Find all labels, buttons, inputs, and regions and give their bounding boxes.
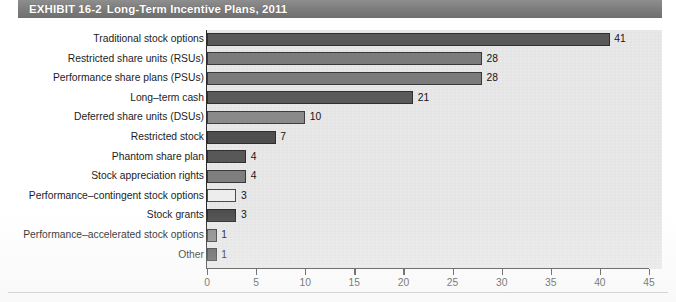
bar-value-label: 28 — [487, 50, 498, 68]
bar-segment — [207, 33, 610, 46]
x-axis-tick-label: 40 — [594, 277, 605, 288]
bar-segment — [207, 209, 236, 222]
bar-segment — [207, 229, 217, 242]
x-axis-tick-label: 0 — [204, 277, 210, 288]
exhibit-banner: EXHIBIT 16-2Long-Term Incentive Plans, 2… — [18, 0, 662, 18]
bar-segment — [207, 91, 413, 104]
x-axis-tick-label: 25 — [447, 277, 458, 288]
bar-segment — [207, 150, 246, 163]
bar-value-label: 41 — [614, 30, 625, 48]
bar-row: Stock appreciation rights4 — [0, 167, 676, 185]
bar-category-label: Stock grants — [147, 206, 204, 224]
bar-category-label: Performance share plans (PSUs) — [53, 69, 204, 87]
bar-value-label: 3 — [241, 206, 247, 224]
bar-row: Deferred share units (DSUs)10 — [0, 108, 676, 126]
exhibit-number-label: EXHIBIT 16-2 — [29, 3, 102, 15]
x-axis-tick-mark — [403, 269, 404, 275]
bar-row: Stock grants3 — [0, 206, 676, 224]
x-axis-tick-mark — [551, 269, 552, 275]
bar-row: Long–term cash21 — [0, 89, 676, 107]
x-axis-tick-mark — [649, 269, 650, 275]
bar-value-label: 4 — [251, 167, 257, 185]
bar-value-label: 21 — [418, 89, 429, 107]
bar-category-label: Stock appreciation rights — [91, 167, 204, 185]
bar-value-label: 7 — [280, 128, 286, 146]
bar-category-label: Other — [178, 246, 204, 264]
bar-segment — [207, 111, 305, 124]
x-axis-tick-label: 5 — [253, 277, 259, 288]
x-axis-tick-label: 20 — [398, 277, 409, 288]
bar-category-label: Long–term cash — [130, 89, 204, 107]
bar-row: Restricted share units (RSUs)28 — [0, 50, 676, 68]
x-axis-tick-label: 10 — [299, 277, 310, 288]
bar-row: Phantom share plan4 — [0, 148, 676, 166]
x-axis-tick-label: 35 — [545, 277, 556, 288]
x-axis-tick-mark — [207, 269, 208, 275]
bar-row: Traditional stock options41 — [0, 30, 676, 48]
bar-value-label: 28 — [487, 69, 498, 87]
bar-segment — [207, 248, 217, 261]
bar-category-label: Deferred share units (DSUs) — [74, 108, 204, 126]
x-axis-tick-label: 45 — [643, 277, 654, 288]
bar-category-label: Traditional stock options — [93, 30, 204, 48]
x-axis-tick-label: 30 — [496, 277, 507, 288]
x-axis-tick-mark — [502, 269, 503, 275]
exhibit-banner-text: EXHIBIT 16-2Long-Term Incentive Plans, 2… — [18, 3, 287, 15]
bar-row: Performance–accelerated stock options1 — [0, 226, 676, 244]
x-axis-tick-mark — [354, 269, 355, 275]
bar-row: Performance–contingent stock options3 — [0, 187, 676, 205]
bar-category-label: Performance–accelerated stock options — [23, 226, 204, 244]
x-axis-tick-label: 15 — [349, 277, 360, 288]
bar-value-label: 1 — [221, 226, 227, 244]
bottom-divider-rule — [8, 292, 668, 293]
bar-value-label: 3 — [241, 187, 247, 205]
bar-category-label: Performance–contingent stock options — [29, 187, 204, 205]
x-axis-tick-mark — [305, 269, 306, 275]
bar-row: Other1 — [0, 246, 676, 264]
x-axis-tick-mark — [256, 269, 257, 275]
bar-segment — [207, 189, 236, 202]
x-axis-tick-mark — [453, 269, 454, 275]
bar-value-label: 4 — [251, 148, 257, 166]
bar-row: Performance share plans (PSUs)28 — [0, 69, 676, 87]
bar-value-label: 10 — [310, 108, 321, 126]
exhibit-title-label: Long-Term Incentive Plans, 2011 — [107, 3, 288, 15]
x-axis-tick-mark — [600, 269, 601, 275]
bar-category-label: Restricted stock — [131, 128, 204, 146]
bar-chart-figure: Traditional stock options41Restricted sh… — [0, 18, 676, 302]
x-axis-line — [206, 268, 649, 269]
bar-value-label: 1 — [221, 246, 227, 264]
bar-segment — [207, 131, 276, 144]
bar-segment — [207, 52, 482, 65]
bar-row: Restricted stock7 — [0, 128, 676, 146]
bar-segment — [207, 72, 482, 85]
bar-category-label: Restricted share units (RSUs) — [68, 50, 204, 68]
bar-category-label: Phantom share plan — [112, 148, 204, 166]
bar-segment — [207, 170, 246, 183]
